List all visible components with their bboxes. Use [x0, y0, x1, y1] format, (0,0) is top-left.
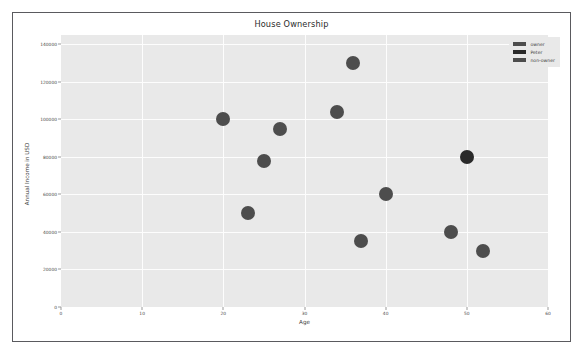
- y-tick-label: 120000: [40, 79, 57, 84]
- x-tick-mark: [223, 307, 224, 310]
- x-tick-label: 30: [302, 311, 308, 316]
- y-tick-mark: [58, 269, 61, 270]
- legend-swatch-icon: [513, 42, 526, 46]
- legend-item-owner[interactable]: owner: [513, 40, 555, 48]
- legend-item-peter[interactable]: Peter: [513, 48, 555, 56]
- scatter-point-owner: [257, 154, 271, 168]
- scatter-point-non-owner: [354, 234, 368, 248]
- legend-item-label: non-owner: [530, 58, 555, 63]
- scatter-point-non-owner: [444, 225, 458, 239]
- scatter-point-owner: [273, 122, 287, 136]
- x-tick-label: 0: [60, 311, 63, 316]
- page-title: House Ownership: [13, 19, 570, 29]
- legend-swatch-icon: [513, 50, 526, 54]
- figure-frame: House Ownership 020000400006000080000100…: [12, 12, 571, 342]
- y-tick-label: 40000: [43, 229, 57, 234]
- y-tick-mark: [58, 81, 61, 82]
- scatter-point-owner: [330, 105, 344, 119]
- y-tick-label: 20000: [43, 267, 57, 272]
- plot-area: 0200004000060000800001000001200001400000…: [61, 35, 548, 307]
- x-tick-label: 60: [545, 311, 551, 316]
- legend-item-label: owner: [530, 42, 544, 47]
- scatter-markers: [61, 35, 548, 307]
- y-tick-mark: [58, 44, 61, 45]
- x-tick-mark: [548, 307, 549, 310]
- x-axis-label: Age: [61, 319, 548, 325]
- y-tick-mark: [58, 119, 61, 120]
- x-tick-mark: [466, 307, 467, 310]
- legend-item-non-owner[interactable]: non-owner: [513, 56, 555, 64]
- scatter-point-non-owner: [241, 206, 255, 220]
- y-tick-label: 140000: [40, 42, 57, 47]
- y-tick-label: 100000: [40, 117, 57, 122]
- scatter-point-owner: [379, 187, 393, 201]
- y-tick-label: 60000: [43, 192, 57, 197]
- legend-swatch-icon: [513, 58, 526, 62]
- y-tick-mark: [58, 231, 61, 232]
- x-tick-mark: [142, 307, 143, 310]
- x-tick-mark: [385, 307, 386, 310]
- y-axis-label: Annual Income in USD: [24, 74, 30, 274]
- legend: ownerPeternon-owner: [509, 37, 560, 67]
- y-tick-mark: [58, 156, 61, 157]
- scatter-point-peter: [460, 150, 474, 164]
- x-tick-mark: [61, 307, 62, 310]
- scatter-point-non-owner: [476, 244, 490, 258]
- x-tick-label: 50: [464, 311, 470, 316]
- x-tick-label: 40: [383, 311, 389, 316]
- x-tick-mark: [304, 307, 305, 310]
- y-tick-mark: [58, 194, 61, 195]
- x-tick-label: 20: [221, 311, 227, 316]
- y-tick-label: 80000: [43, 154, 57, 159]
- scatter-point-owner: [346, 56, 360, 70]
- legend-item-label: Peter: [530, 50, 542, 55]
- y-tick-label: 0: [54, 305, 57, 310]
- x-tick-label: 10: [139, 311, 145, 316]
- scatter-point-owner: [216, 112, 230, 126]
